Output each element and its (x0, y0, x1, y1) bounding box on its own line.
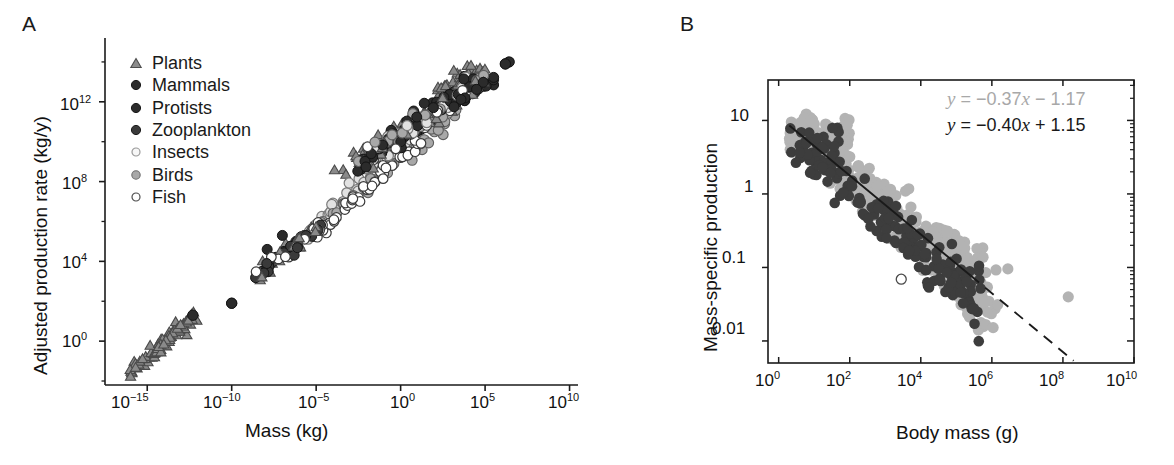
panel-b-plot (694, 0, 1174, 400)
panel-b-equation-gray: y = −0.37x − 1.17 (947, 88, 1085, 110)
legend-label-mammals: Mammals (152, 76, 230, 94)
legend-label-plants: Plants (152, 54, 202, 72)
legend-item-mammals: Mammals (126, 74, 251, 96)
panel-b-equation-black: y = −0.40x + 1.15 (947, 114, 1085, 136)
zooplankton-marker-icon (126, 120, 146, 140)
plants-marker-icon (126, 53, 146, 73)
panel-b-label: B (680, 12, 694, 36)
insects-marker-icon (126, 142, 146, 162)
legend-label-fish: Fish (152, 188, 186, 206)
mammals-marker-icon (126, 75, 146, 95)
legend-label-insects: Insects (152, 143, 209, 161)
panel-a-x-axis-title: Mass (kg) (245, 420, 328, 442)
legend-label-zooplankton: Zooplankton (152, 121, 251, 139)
legend-item-plants: Plants (126, 52, 251, 74)
legend-item-zooplankton: Zooplankton (126, 119, 251, 141)
fish-marker-icon (126, 187, 146, 207)
legend-item-birds: Birds (126, 163, 251, 185)
birds-marker-icon (126, 165, 146, 185)
legend-item-insects: Insects (126, 141, 251, 163)
legend-item-protists: Protists (126, 97, 251, 119)
panel-a-plot (0, 0, 600, 400)
figure-root: A B Adjusted production rate (kg/y) Mass… (0, 0, 1174, 465)
legend-label-protists: Protists (152, 99, 212, 117)
panel-b-x-axis-title: Body mass (g) (896, 422, 1018, 444)
protists-marker-icon (126, 98, 146, 118)
legend-item-fish: Fish (126, 186, 251, 208)
legend-label-birds: Birds (152, 166, 193, 184)
panel-a-legend: Plants Mammals Protists Zooplankton Inse… (126, 52, 251, 208)
